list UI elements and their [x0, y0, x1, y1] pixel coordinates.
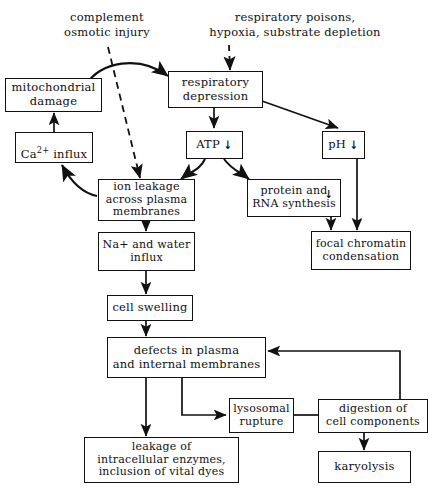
node-ion-leakage-label: ion leakage across plasma membranes — [103, 181, 191, 220]
dashed-arrow-respiratory — [229, 45, 230, 70]
ph-text: pH — [328, 137, 346, 151]
node-karyolysis: karyolysis — [318, 451, 411, 483]
ca-influx-word: influx — [53, 147, 87, 161]
curve-atp-to-protein — [224, 159, 249, 179]
node-ph-label: pH↓ — [325, 138, 362, 152]
atp-text: ATP — [196, 137, 220, 151]
node-digestion-cell-components: digestion of cell components — [318, 399, 428, 433]
node-lysosomal-rupture-label: lysosomal rupture — [230, 403, 293, 429]
down-arrow-icon: ↓ — [224, 139, 232, 153]
dashed-arrow-complement — [108, 47, 140, 178]
node-lysosomal-rupture: lysosomal rupture — [229, 398, 294, 433]
node-focal-chromatin-condensation-label: focal chromatin condensation — [313, 238, 410, 264]
node-digestion-cell-components-label: digestion of cell components — [323, 403, 423, 429]
label-complement-osmotic-injury: complement osmotic injury — [32, 10, 182, 39]
curve-atp-to-ion — [181, 159, 205, 179]
node-protein-rna-synthesis: protein and RNA synthesis ↓ — [247, 179, 341, 217]
node-leakage-intracellular-enzymes-label: leakage of intracellular enzymes, inclus… — [94, 441, 229, 480]
down-arrow-icon: ↓ — [350, 139, 358, 153]
down-arrow-icon: ↓ — [324, 189, 332, 202]
ca-symbol: Ca — [21, 147, 37, 161]
arrow-defects-to-lysosomal — [182, 378, 226, 415]
node-cell-swelling: cell swelling — [107, 295, 193, 321]
node-mitochondrial-damage-label: mitochondrial damage — [9, 81, 99, 108]
node-ph: pH↓ — [322, 131, 365, 159]
node-mitochondrial-damage: mitochondrial damage — [5, 78, 102, 112]
node-respiratory-depression: respiratory depression — [168, 71, 263, 108]
label-respiratory-poisons: respiratory poisons, hypoxia, substrate … — [170, 10, 420, 39]
node-leakage-intracellular-enzymes: leakage of intracellular enzymes, inclus… — [84, 437, 239, 483]
node-cell-swelling-label: cell swelling — [109, 301, 190, 315]
node-na-water-influx: Na+ and water influx — [98, 232, 195, 271]
node-karyolysis-label: karyolysis — [331, 460, 397, 474]
arrow-digestion-to-defects — [268, 351, 400, 400]
node-atp: ATP↓ — [186, 131, 243, 159]
arrow-resp-to-ph — [262, 101, 338, 128]
ca-charge-superscript: 2+ — [37, 145, 50, 155]
node-respiratory-depression-label: respiratory depression — [179, 76, 252, 103]
node-ca-influx-label: Ca2+ influx — [18, 134, 91, 161]
node-defects-membranes-label: defects in plasma and internal membranes — [110, 344, 264, 371]
node-ca-influx: Ca2+ influx — [15, 132, 93, 163]
node-defects-membranes: defects in plasma and internal membranes — [107, 337, 266, 378]
node-na-water-influx-label: Na+ and water influx — [100, 239, 194, 265]
curve-ion-to-ca — [62, 165, 97, 196]
cell-injury-flowchart: complement osmotic injury respiratory po… — [0, 0, 439, 493]
node-ion-leakage: ion leakage across plasma membranes — [98, 179, 195, 221]
node-atp-label: ATP↓ — [193, 138, 236, 152]
node-focal-chromatin-condensation: focal chromatin condensation — [311, 231, 411, 270]
